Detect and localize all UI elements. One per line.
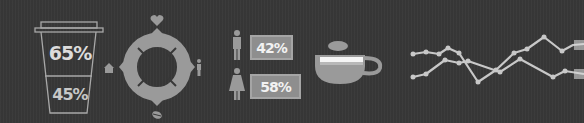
male-icon [233, 30, 241, 60]
person-icon [197, 59, 201, 76]
line-end-glow-2 [574, 69, 584, 79]
coffee-bean-icon [151, 110, 163, 121]
line-end-glow-1 [574, 40, 584, 50]
heart-icon [151, 15, 164, 26]
ring-chart [119, 28, 195, 106]
female-icon [229, 68, 245, 100]
line-chart [413, 37, 584, 82]
male-percentage-box: 42% [250, 35, 293, 60]
line-chart-points [411, 35, 568, 85]
cup-top-percentage: 65% [45, 42, 95, 64]
house-icon [104, 63, 114, 73]
female-percentage-box: 58% [250, 74, 301, 99]
coffee-cup-icon [315, 41, 380, 84]
cup-bottom-percentage: 45% [46, 85, 94, 104]
